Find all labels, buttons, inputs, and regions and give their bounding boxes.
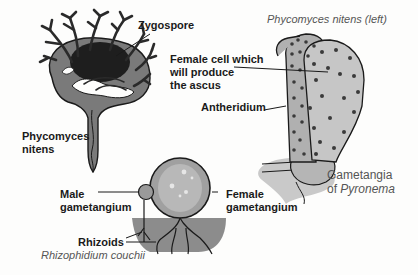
pyronema-caption-prefix: of	[327, 182, 340, 196]
rhizophidium-caption: Rhizophidium couchii	[41, 249, 145, 262]
phycomyces-name-label: Phycomyces nitens	[22, 130, 89, 156]
antheridium-label: Antheridium	[201, 101, 266, 114]
phycomyces-caption: Phycomyces nitens (left)	[267, 13, 387, 26]
antheridium-leader-line	[264, 106, 286, 110]
female-gametangium-label: Female gametangium	[226, 188, 298, 214]
pyronema-caption-line1: Gametangia	[327, 168, 392, 182]
rhizoids-label: Rhizoids	[78, 236, 124, 249]
pyronema-caption: Gametangiaof Pyronema	[327, 168, 395, 196]
rhizophidium-illustration	[132, 158, 226, 254]
male-gametangium-label: Male gametangium	[60, 188, 132, 214]
pyronema-caption-genus: Pyronema	[340, 182, 395, 196]
zygospore-label: Zygospore	[138, 19, 194, 32]
female-cell-label: Female cell which will produce the ascus	[170, 53, 264, 92]
